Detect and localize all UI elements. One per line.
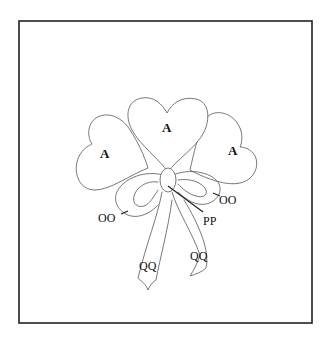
label-bow-loop-right: OO (219, 193, 237, 207)
leader-pp (168, 186, 203, 212)
label-heart-right: A (228, 143, 238, 158)
ribbon-tail-left (138, 192, 172, 290)
bow-loop-left-inner (134, 182, 158, 207)
pattern-diagram: A A A OO OO PP QQ QQ (0, 0, 330, 341)
label-bow-knot: PP (203, 214, 217, 228)
label-ribbon-tail-right: QQ (190, 249, 208, 263)
label-bow-loop-left: OO (98, 211, 116, 225)
label-heart-center: A (162, 120, 172, 135)
bow-knot (160, 168, 176, 192)
label-ribbon-tail-left: QQ (139, 259, 157, 273)
label-heart-left: A (100, 146, 110, 161)
bow-loop-right-inner (178, 179, 206, 196)
